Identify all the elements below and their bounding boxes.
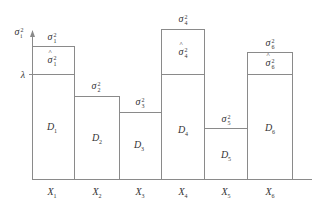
- d-subscript: 2: [99, 139, 102, 145]
- sigma-hat-label-6: σ26: [266, 58, 275, 70]
- sigma-symbol: σ: [222, 113, 227, 124]
- sigma-label-5: σ25: [222, 114, 231, 126]
- x-subscript: 2: [99, 193, 102, 199]
- d-label-6: D6: [265, 123, 275, 135]
- x-subscript: 4: [185, 193, 188, 199]
- sigma-symbol: σ: [179, 13, 184, 24]
- subscript: 6: [271, 64, 274, 70]
- subscript: 3: [141, 103, 144, 109]
- sigma-label-2: σ22: [92, 81, 101, 93]
- sigma-symbol: σ: [92, 80, 97, 91]
- sigma-symbol: σ: [15, 26, 20, 37]
- d-subscript: 4: [185, 131, 188, 137]
- d-label-4: D4: [178, 125, 188, 137]
- x-label-4: X4: [178, 187, 187, 199]
- sigma-hat-label-1: σ21: [48, 55, 57, 67]
- x-label-1: X1: [47, 187, 56, 199]
- d-subscript: 3: [141, 146, 144, 152]
- subscript: i: [20, 33, 23, 39]
- d-subscript: 6: [272, 129, 275, 135]
- sigma-label-6: σ26: [266, 38, 275, 50]
- sigma-hat-symbol: σ: [266, 58, 271, 68]
- sigma-symbol: σ: [266, 37, 271, 48]
- x-label-2: X2: [92, 187, 101, 199]
- sigma-hat-label-4: σ24: [179, 47, 188, 59]
- sigma-hat-symbol: σ: [179, 47, 184, 57]
- y-axis-label: σ2i: [15, 27, 24, 39]
- subscript: 6: [271, 44, 274, 50]
- d-subscript: 5: [228, 156, 231, 162]
- sigma-symbol: σ: [136, 96, 141, 107]
- x-subscript: 3: [142, 193, 145, 199]
- d-label-1: D1: [47, 122, 57, 134]
- sigma-hat-symbol: σ: [48, 55, 53, 65]
- sigma-label-1: σ21: [48, 32, 57, 44]
- subscript: 5: [227, 120, 230, 126]
- x-subscript: 1: [54, 193, 57, 199]
- subscript: 4: [184, 53, 187, 59]
- lambda-label: λ: [21, 70, 25, 80]
- bar-6: [248, 53, 293, 180]
- x-label-6: X6: [265, 187, 274, 199]
- d-label-3: D3: [134, 140, 144, 152]
- x-subscript: 5: [228, 193, 231, 199]
- d-label-2: D2: [92, 133, 102, 145]
- sigma-label-3: σ23: [136, 97, 145, 109]
- y-axis-arrow-icon: [30, 30, 35, 37]
- x-label-3: X3: [135, 187, 144, 199]
- d-label-5: D5: [221, 150, 231, 162]
- subscript: 1: [53, 61, 56, 67]
- d-subscript: 1: [54, 128, 57, 134]
- x-subscript: 6: [272, 193, 275, 199]
- x-label-5: X5: [221, 187, 230, 199]
- subscript: 1: [53, 38, 56, 44]
- subscript: 2: [97, 87, 100, 93]
- sigma-symbol: σ: [48, 31, 53, 42]
- subscript: 4: [184, 20, 187, 26]
- sigma-label-4: σ24: [179, 14, 188, 26]
